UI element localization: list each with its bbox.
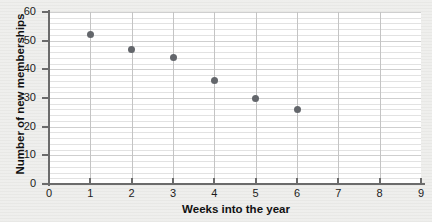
x-tick-label: 4 (204, 188, 224, 199)
x-tick-label: 3 (163, 188, 183, 199)
gridline-horizontal (49, 121, 421, 122)
gridline-horizontal (49, 178, 421, 179)
y-tick-mark (42, 11, 49, 13)
gridline-horizontal (49, 81, 421, 82)
x-tick-mark (131, 178, 133, 185)
gridline-horizontal (49, 12, 421, 13)
y-tick-mark (42, 40, 49, 42)
gridline-horizontal (49, 87, 421, 88)
gridline-vertical (132, 12, 133, 184)
x-tick-label: 8 (370, 188, 390, 199)
gridline-vertical (380, 12, 381, 184)
gridline-horizontal (49, 138, 421, 139)
gridline-horizontal (49, 109, 421, 110)
gridline-horizontal (49, 92, 421, 93)
x-tick-mark (420, 178, 422, 185)
gridline-horizontal (49, 46, 421, 47)
gridline-horizontal (49, 155, 421, 156)
data-point (294, 106, 301, 113)
x-tick-label: 5 (246, 188, 266, 199)
y-tick-mark (42, 126, 49, 128)
x-tick-mark (255, 178, 257, 185)
gridline-horizontal (49, 41, 421, 42)
gridline-vertical (173, 12, 174, 184)
gridline-vertical (214, 12, 215, 184)
gridline-horizontal (49, 132, 421, 133)
x-tick-mark (89, 178, 91, 185)
gridline-vertical (338, 12, 339, 184)
x-tick-label: 2 (122, 188, 142, 199)
gridline-horizontal (49, 127, 421, 128)
scatter-chart-figure: 01020304050600123456789 Weeks into the y… (0, 0, 432, 222)
gridline-horizontal (49, 58, 421, 59)
gridline-horizontal (49, 64, 421, 65)
gridline-horizontal (49, 98, 421, 99)
gridline-horizontal (49, 52, 421, 53)
x-tick-label: 7 (328, 188, 348, 199)
x-tick-label: 1 (80, 188, 100, 199)
data-point (128, 46, 135, 53)
x-tick-label: 0 (39, 188, 59, 199)
x-tick-mark (172, 178, 174, 185)
gridline-horizontal (49, 18, 421, 19)
x-tick-mark (296, 178, 298, 185)
gridline-horizontal (49, 144, 421, 145)
y-axis-title: Number of new memberships (14, 0, 26, 189)
data-point (170, 54, 177, 61)
y-tick-mark (42, 68, 49, 70)
gridline-horizontal (49, 167, 421, 168)
x-tick-label: 9 (411, 188, 431, 199)
data-point (252, 95, 259, 102)
x-axis-line (44, 183, 425, 185)
gridline-horizontal (49, 150, 421, 151)
gridline-horizontal (49, 29, 421, 30)
gridline-horizontal (49, 23, 421, 24)
plot-area (49, 12, 421, 184)
x-tick-mark (337, 178, 339, 185)
gridline-horizontal (49, 161, 421, 162)
x-tick-mark (48, 178, 50, 185)
x-tick-label: 6 (287, 188, 307, 199)
gridline-horizontal (49, 173, 421, 174)
gridline-horizontal (49, 115, 421, 116)
gridline-vertical (297, 12, 298, 184)
gridline-horizontal (49, 75, 421, 76)
gridline-horizontal (49, 35, 421, 36)
y-tick-mark (42, 97, 49, 99)
gridline-horizontal (49, 69, 421, 70)
x-tick-mark (213, 178, 215, 185)
gridline-horizontal (49, 104, 421, 105)
x-tick-mark (379, 178, 381, 185)
x-axis-title: Weeks into the year (0, 203, 432, 215)
y-tick-mark (42, 154, 49, 156)
